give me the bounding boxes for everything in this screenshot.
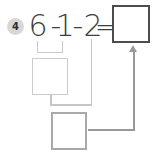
arrow-horizontal-line bbox=[88, 129, 135, 131]
step1-box[interactable] bbox=[32, 58, 68, 95]
problem-number-badge: 4 bbox=[7, 18, 24, 35]
bracket-under-6-and-1 bbox=[37, 41, 63, 53]
connector-horizontal-line bbox=[50, 104, 92, 106]
arrow-vertical-line bbox=[133, 51, 135, 130]
connector-from-2-line bbox=[91, 39, 93, 106]
operand-first: 6 bbox=[28, 11, 47, 41]
math-worksheet-problem: 4 6 - 1 - 2 = bbox=[0, 0, 160, 158]
arrow-up-icon bbox=[129, 45, 137, 52]
step2-box[interactable] bbox=[51, 112, 87, 150]
answer-box[interactable] bbox=[112, 5, 150, 43]
minus-operator-2: - bbox=[73, 11, 84, 41]
